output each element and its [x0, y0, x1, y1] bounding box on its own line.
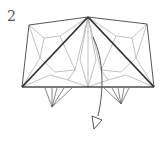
right-hanging-flap — [104, 88, 129, 104]
left-hanging-flap — [45, 88, 72, 107]
crease-lines — [22, 17, 154, 87]
fold-down-arrow — [92, 37, 102, 129]
origami-diagram — [0, 0, 162, 142]
